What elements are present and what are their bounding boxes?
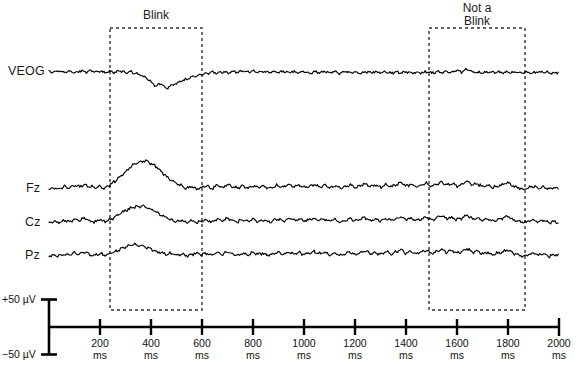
- not-a-blink-box-title: Not a Blink: [429, 2, 525, 28]
- axis-tick-value: 2000: [534, 338, 579, 350]
- axis-tick-unit: ms: [228, 350, 278, 362]
- axis-tick-value: 1000: [279, 338, 329, 350]
- axis-tick-unit: ms: [126, 350, 176, 362]
- axis-tick-label-1400: 1400ms: [381, 338, 431, 361]
- axis-tick-value: 1200: [330, 338, 380, 350]
- trace-veog: [49, 68, 558, 89]
- axis-tick-label-200: 200ms: [75, 338, 125, 361]
- eeg-plot-svg: [0, 0, 579, 379]
- axis-tick-value: 600: [177, 338, 227, 350]
- blink-box: [110, 28, 202, 310]
- axis-tick-unit: ms: [330, 350, 380, 362]
- channel-label-veog: VEOG: [8, 64, 45, 78]
- trace-pz: [49, 243, 558, 258]
- trace-fz: [49, 160, 558, 190]
- axis-tick-label-800: 800ms: [228, 338, 278, 361]
- axis-tick-value: 1400: [381, 338, 431, 350]
- axis-tick-unit: ms: [177, 350, 227, 362]
- axis-tick-label-2000: 2000ms: [534, 338, 579, 361]
- axis-tick-value: 200: [75, 338, 125, 350]
- axis-tick-label-1000: 1000ms: [279, 338, 329, 361]
- axis-tick-label-1600: 1600ms: [432, 338, 482, 361]
- axis-tick-label-1800: 1800ms: [483, 338, 533, 361]
- channel-label-pz: Pz: [25, 248, 40, 262]
- axis-tick-unit: ms: [279, 350, 329, 362]
- trace-cz: [49, 205, 558, 224]
- axis-tick-value: 1800: [483, 338, 533, 350]
- axis-tick-value: 400: [126, 338, 176, 350]
- not-a-blink-box: [429, 28, 525, 310]
- axis-tick-value: 1600: [432, 338, 482, 350]
- time-axis: [49, 318, 559, 336]
- axis-tick-unit: ms: [534, 350, 579, 362]
- axis-tick-label-600: 600ms: [177, 338, 227, 361]
- axis-tick-unit: ms: [483, 350, 533, 362]
- blink-box-title: Blink: [110, 9, 202, 22]
- eeg-figure: VEOG Fz Cz Pz Blink Not a Blink +50 µV −…: [0, 0, 579, 379]
- axis-tick-value: 800: [228, 338, 278, 350]
- eeg-traces: [49, 68, 558, 258]
- scale-label-positive: +50 µV: [2, 293, 36, 305]
- axis-tick-label-400: 400ms: [126, 338, 176, 361]
- axis-tick-unit: ms: [75, 350, 125, 362]
- axis-tick-unit: ms: [432, 350, 482, 362]
- axis-tick-label-1200: 1200ms: [330, 338, 380, 361]
- channel-label-cz: Cz: [25, 215, 41, 229]
- axis-tick-unit: ms: [381, 350, 431, 362]
- scale-label-negative: −50 µV: [2, 348, 36, 360]
- not-a-blink-line-2: Blink: [429, 15, 525, 28]
- channel-label-fz: Fz: [26, 181, 40, 195]
